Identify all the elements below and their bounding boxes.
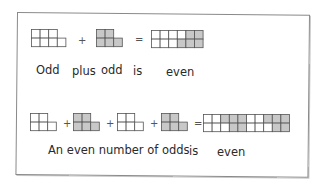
figure-odd-five-white-2 bbox=[117, 113, 144, 131]
caption-word-is-2: is bbox=[189, 146, 198, 158]
equals-sign: = bbox=[135, 35, 143, 45]
figure-odd-five-white-1 bbox=[30, 113, 57, 131]
caption-word-is: is bbox=[133, 66, 142, 78]
plus-sign-3: + bbox=[150, 119, 158, 129]
caption-word-even: even bbox=[166, 67, 194, 79]
plus-sign-2: + bbox=[106, 119, 114, 129]
figure-even-twelve-result bbox=[151, 30, 204, 48]
figure-even-twenty-result bbox=[203, 114, 290, 132]
plus-sign: + bbox=[78, 36, 86, 46]
figure-odd-five-gray-1 bbox=[73, 113, 100, 131]
diagram-canvas: + = Odd plus odd is even + + + = An even… bbox=[0, 0, 326, 181]
equals-sign-2: = bbox=[194, 119, 202, 129]
caption-word-even-2: even bbox=[217, 147, 245, 159]
caption-word-plus: plus bbox=[72, 66, 96, 78]
plus-sign-1: + bbox=[63, 119, 71, 129]
figure-odd-five-gray-2 bbox=[161, 113, 188, 131]
caption-phrase-even-number-of-odds: An even number of odds bbox=[48, 145, 190, 157]
figure-odd-seven-white bbox=[31, 29, 66, 47]
caption-word-odd-2: odd bbox=[101, 65, 123, 77]
figure-odd-five-gray bbox=[96, 29, 123, 47]
caption-word-odd: Odd bbox=[36, 65, 60, 77]
